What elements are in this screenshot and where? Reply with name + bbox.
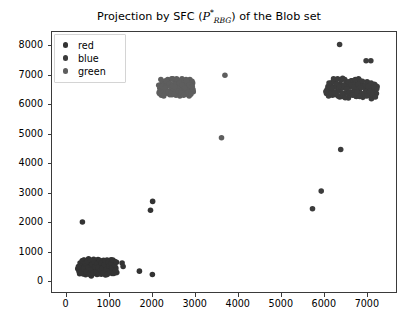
data-point	[373, 94, 379, 100]
data-point	[80, 219, 86, 225]
data-point	[352, 77, 358, 83]
data-point	[150, 199, 156, 205]
series-blue	[310, 42, 380, 212]
data-point	[219, 135, 225, 141]
data-point	[76, 264, 82, 270]
legend: redbluegreen	[54, 34, 126, 83]
legend-dot	[63, 55, 68, 60]
data-point	[350, 93, 356, 99]
y-tick-label: 4000	[0, 157, 43, 168]
data-point	[161, 93, 167, 99]
data-point	[148, 207, 154, 213]
data-point	[158, 77, 164, 83]
y-tick-label: 8000	[0, 39, 43, 50]
x-tick-mark	[324, 293, 325, 297]
data-point	[114, 259, 120, 265]
y-tick-label: 6000	[0, 98, 43, 109]
data-point	[364, 93, 370, 99]
data-point	[338, 77, 344, 83]
x-tick-label: 7000	[342, 298, 392, 309]
x-tick-mark	[109, 293, 110, 297]
y-tick-label: 1000	[0, 246, 43, 257]
data-point	[310, 206, 316, 212]
legend-item-green: green	[60, 65, 119, 78]
data-point	[354, 89, 360, 95]
data-point	[189, 84, 195, 90]
data-point	[137, 268, 143, 274]
x-tick-mark	[367, 293, 368, 297]
legend-item-blue: blue	[60, 52, 119, 65]
data-point	[342, 95, 348, 101]
chart-title-before: Projection by SFC (	[97, 10, 202, 23]
data-point	[374, 86, 380, 92]
y-tick-label: 3000	[0, 187, 43, 198]
data-point	[331, 76, 337, 82]
x-tick-mark	[66, 293, 67, 297]
legend-item-red: red	[60, 39, 119, 52]
legend-marker-icon	[60, 55, 71, 60]
series-red	[75, 199, 155, 279]
scatter-plot-figure: Projection by SFC (P*RBG) of the Blob se…	[0, 0, 418, 332]
y-tick-label: 0	[0, 275, 43, 286]
data-point	[113, 267, 119, 273]
series-green	[156, 73, 228, 141]
data-point	[326, 80, 332, 86]
x-tick-mark	[152, 293, 153, 297]
legend-dot	[63, 68, 68, 73]
data-point	[120, 264, 126, 270]
data-point	[318, 188, 324, 194]
chart-title-after: ) of the Blob set	[231, 10, 321, 23]
y-tick-label: 7000	[0, 69, 43, 80]
legend-label: blue	[78, 53, 99, 64]
data-point	[188, 91, 194, 97]
x-tick-mark	[195, 293, 196, 297]
chart-title-subscript: RBG	[214, 16, 232, 25]
legend-marker-icon	[60, 68, 71, 73]
data-point	[222, 73, 228, 79]
data-point	[337, 42, 343, 48]
legend-label: red	[78, 40, 94, 51]
legend-dot	[63, 42, 68, 47]
data-point	[368, 58, 374, 64]
chart-title-variable: P	[203, 10, 211, 23]
legend-marker-icon	[60, 42, 71, 47]
data-point	[338, 147, 344, 153]
data-point	[150, 272, 156, 278]
x-tick-mark	[281, 293, 282, 297]
y-tick-label: 5000	[0, 128, 43, 139]
data-point	[363, 58, 369, 64]
legend-label: green	[78, 66, 106, 77]
chart-title: Projection by SFC (P*RBG) of the Blob se…	[0, 8, 418, 25]
x-tick-mark	[238, 293, 239, 297]
y-tick-label: 2000	[0, 216, 43, 227]
